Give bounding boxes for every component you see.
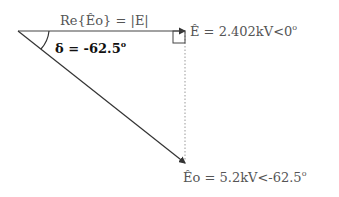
angle-degree: o <box>121 39 126 49</box>
real-part-text: Re{Êo} = |E| <box>60 13 149 28</box>
e-phasor-label: Ê = 2.402kV<0o <box>190 24 297 38</box>
eo-phasor-text: Êo = 5.2kV<-62.5 <box>183 170 302 185</box>
e-phasor-text: Ê = 2.402kV<0 <box>190 24 292 39</box>
eo-phasor-degree: o <box>302 169 307 178</box>
angle-text: δ = -62.5 <box>55 41 121 56</box>
eo-phasor-label: Êo = 5.2kV<-62.5o <box>183 170 306 184</box>
real-part-label: Re{Êo} = |E| <box>60 14 149 27</box>
angle-label: δ = -62.5o <box>55 40 126 55</box>
angle-arc <box>41 31 49 49</box>
e-phasor-degree: o <box>292 23 297 32</box>
right-angle-marker <box>173 31 185 43</box>
